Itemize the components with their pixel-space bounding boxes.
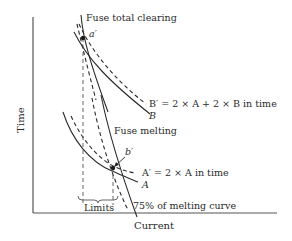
label-b-prime: b′	[125, 146, 134, 157]
label-curve-b: B	[148, 110, 156, 121]
label-fuse-total-clearing: Fuse total clearing	[86, 12, 177, 23]
point-a-prime-marker	[81, 36, 85, 40]
fuse-coordination-diagram: Fuse total clearing a′ B′ = 2 × A + 2 × …	[0, 0, 292, 241]
melting-75-curve	[92, 98, 128, 210]
y-axis-label: Time	[15, 107, 26, 132]
label-melting-75: 75% of melting curve	[133, 200, 236, 211]
label-curve-a: A	[141, 179, 149, 190]
label-fuse-melting: Fuse melting	[114, 125, 177, 136]
x-axis-label: Current	[134, 220, 174, 231]
label-curve-a-prime: A′ = 2 × A in time	[141, 167, 229, 178]
label-curve-b-prime: B′ = 2 × A + 2 × B in time	[149, 98, 277, 109]
label-a-prime: a′	[89, 28, 98, 39]
label-limits: Limits	[84, 202, 114, 213]
